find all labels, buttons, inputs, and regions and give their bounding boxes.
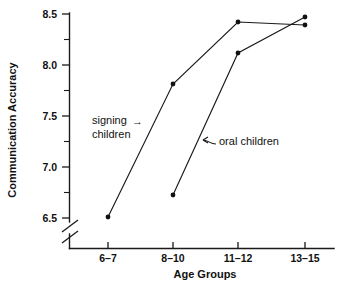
x-tick-label-13-15: 13–15 [290,252,319,264]
annotation-signing-children-line2: children [92,128,131,140]
data-point [303,15,308,20]
x-tick-label-8-10: 8–10 [161,252,185,264]
annotation-signing-children-line1: signing [92,114,127,126]
series-oral-children-path [173,17,305,195]
data-point [303,23,308,28]
x-tick-label-11-12: 11–12 [224,252,253,264]
annotation-signing-arrow-icon: → [132,115,143,127]
y-tick-label-6-5: 6.5 [42,212,57,224]
y-tick-label-8-0: 8.0 [42,59,57,71]
annotation-oral-children-text: oral children [219,135,279,147]
y-axis-major-ticks [62,14,70,218]
data-point [171,193,176,198]
y-tick-label-7-5: 7.5 [42,110,57,122]
y-tick-label-7-0: 7.0 [42,161,57,173]
annotation-signing-children: signing children → [92,114,143,140]
annotation-oral-children: oral children [203,135,279,147]
series-oral-children [171,15,308,198]
data-point [171,82,176,87]
y-axis-title: Communication Accuracy [6,61,18,197]
x-tick-label-6-7: 6–7 [99,252,117,264]
x-axis-ticks [108,242,305,249]
y-tick-label-8-5: 8.5 [42,8,57,20]
x-axis-title: Age Groups [174,268,237,280]
data-point [236,20,241,25]
chart-figure: 8.5 8.0 7.5 7.0 6.5 6–7 8–10 11–12 13–15… [0,0,342,283]
data-point [236,51,241,56]
data-point [106,215,111,220]
line-chart: 8.5 8.0 7.5 7.0 6.5 6–7 8–10 11–12 13–15… [0,0,342,283]
